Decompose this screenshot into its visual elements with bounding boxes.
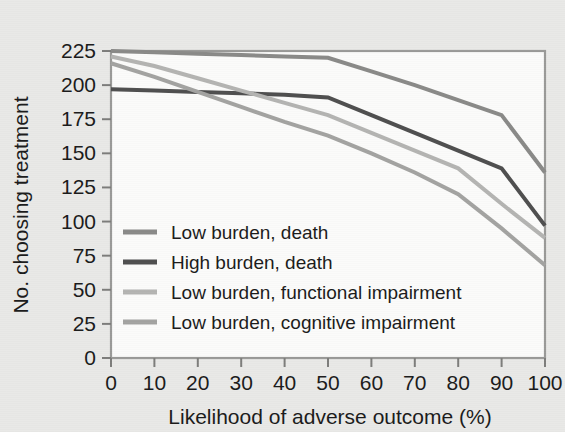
x-tick-label: 50: [316, 371, 339, 394]
x-axis-title: Likelihood of adverse outcome (%): [168, 405, 491, 428]
x-tick-label: 100: [527, 371, 562, 394]
y-axis-ticks: [102, 51, 111, 358]
legend-label-1: High burden, death: [171, 252, 333, 273]
y-tick-label: 0: [84, 346, 96, 369]
y-tick-label: 25: [73, 312, 96, 335]
y-tick-label: 150: [61, 141, 96, 164]
y-axis-tick-labels: 0255075100125150175200225: [61, 39, 96, 369]
x-tick-label: 90: [490, 371, 513, 394]
x-tick-label: 80: [447, 371, 470, 394]
legend-label-3: Low burden, cognitive impairment: [171, 312, 456, 333]
y-tick-label: 200: [61, 73, 96, 96]
x-tick-label: 10: [143, 371, 166, 394]
x-axis-tick-labels: 0102030405060708090100: [105, 371, 562, 394]
x-tick-label: 0: [105, 371, 117, 394]
legend-label-0: Low burden, death: [171, 222, 328, 243]
y-tick-label: 50: [73, 278, 96, 301]
x-tick-label: 70: [403, 371, 426, 394]
y-tick-label: 125: [61, 175, 96, 198]
x-tick-label: 60: [360, 371, 383, 394]
y-tick-label: 75: [73, 244, 96, 267]
line-chart: 0255075100125150175200225 01020304050607…: [0, 0, 565, 432]
y-tick-label: 225: [61, 39, 96, 62]
x-axis-ticks: [111, 358, 545, 367]
chart-figure: 0255075100125150175200225 01020304050607…: [0, 0, 565, 432]
y-tick-label: 100: [61, 210, 96, 233]
legend-label-2: Low burden, functional impairment: [171, 282, 462, 303]
y-axis-title: No. choosing treatment: [9, 96, 32, 313]
x-tick-label: 20: [186, 371, 209, 394]
x-tick-label: 30: [230, 371, 253, 394]
x-tick-label: 40: [273, 371, 296, 394]
y-tick-label: 175: [61, 107, 96, 130]
